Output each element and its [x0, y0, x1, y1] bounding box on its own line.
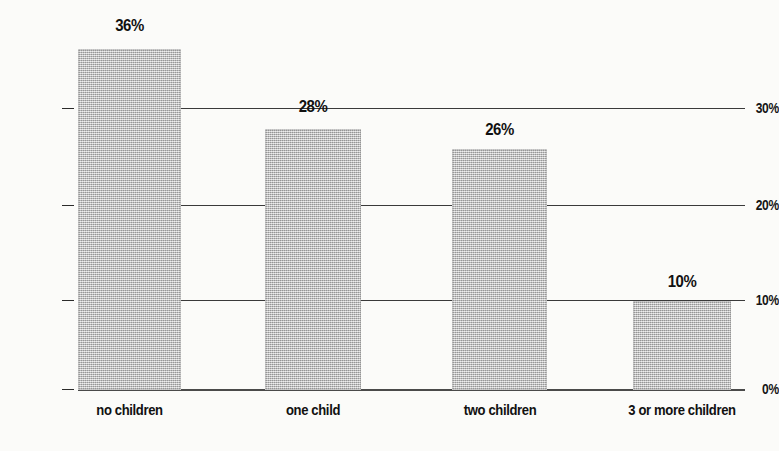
- y-axis-label-30: 30%: [729, 100, 779, 116]
- y-axis-label-20: 20%: [729, 197, 779, 213]
- bar-three-or-more-children[interactable]: [633, 301, 731, 390]
- tick-mark-0: [62, 389, 74, 390]
- bar-one-child[interactable]: [265, 129, 361, 390]
- bar-chart: 30% 20% 10% 0% 36% no children 28% one c…: [0, 0, 779, 451]
- bar-value-label-no-children: 36%: [84, 16, 175, 36]
- bar-value-label-three-or-more-children: 10%: [639, 272, 725, 292]
- y-axis-label-0: 0%: [729, 381, 779, 397]
- bar-value-label-one-child: 28%: [271, 97, 355, 117]
- category-label-one-child: one child: [250, 402, 376, 418]
- y-axis-label-10: 10%: [729, 292, 779, 308]
- category-label-two-children: two children: [437, 402, 563, 418]
- tick-mark-20: [62, 205, 74, 206]
- category-label-no-children: no children: [65, 402, 194, 418]
- bar-value-label-two-children: 26%: [458, 120, 542, 140]
- bar-no-children[interactable]: [78, 49, 181, 390]
- bar-two-children[interactable]: [452, 149, 547, 390]
- plot-area: 30% 20% 10% 0% 36% no children 28% one c…: [0, 0, 779, 451]
- category-label-three-or-more-children: 3 or more children: [610, 402, 754, 418]
- tick-mark-10: [62, 300, 74, 301]
- tick-mark-30: [62, 108, 74, 109]
